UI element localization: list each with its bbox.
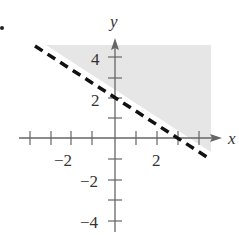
y-tick-label-neg2: −2 (80, 172, 98, 191)
y-tick-label-4: 4 (91, 50, 100, 69)
x-axis-label: x (227, 129, 236, 148)
x-tick-label-neg2: −2 (54, 151, 72, 170)
inequality-graph: y x 4 2 −2 −4 −2 2 (0, 0, 239, 235)
y-tick-label-neg4: −4 (80, 213, 99, 232)
y-tick-label-2: 2 (91, 91, 100, 110)
bullet-dot (0, 26, 4, 30)
y-axis-label: y (108, 12, 118, 31)
x-tick-label-2: 2 (152, 151, 161, 170)
